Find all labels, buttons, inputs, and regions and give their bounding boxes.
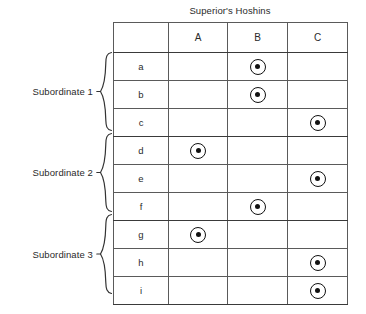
row-label-h: h	[114, 249, 169, 277]
matrix-cell-f-a	[169, 193, 228, 221]
matrix-cell-c-a	[169, 109, 228, 137]
matrix-cell-e-c	[288, 165, 348, 193]
row-label-f: f	[114, 193, 169, 221]
table-header-row: A B C	[114, 23, 348, 53]
matrix-cell-e-a	[169, 165, 228, 193]
matrix-cell-a-b	[228, 53, 288, 81]
matrix-cell-h-b	[228, 249, 288, 277]
matrix-cell-b-a	[169, 81, 228, 109]
row-label-i: i	[114, 277, 169, 305]
matrix-cell-h-c	[288, 249, 348, 277]
table-row: a	[114, 53, 348, 81]
matrix-cell-f-b	[228, 193, 288, 221]
group-label-subordinate-1: Subordinate 1	[33, 86, 96, 97]
matrix-cell-d-a	[169, 137, 228, 165]
relationship-mark-icon	[310, 171, 326, 187]
page-title: Superior's Hoshins	[113, 5, 347, 17]
group-subordinate-1: Subordinate 1	[0, 51, 113, 132]
column-header-a: A	[169, 23, 228, 53]
group-subordinate-3: Subordinate 3	[0, 213, 113, 295]
relationship-mark-icon	[250, 59, 266, 75]
matrix-cell-d-c	[288, 137, 348, 165]
table-row: h	[114, 249, 348, 277]
column-header-c: C	[288, 23, 348, 53]
matrix-cell-f-c	[288, 193, 348, 221]
matrix-cell-i-c	[288, 277, 348, 305]
table-row: d	[114, 137, 348, 165]
group-label-subordinate-2: Subordinate 2	[33, 167, 96, 178]
row-label-a: a	[114, 53, 169, 81]
row-label-c: c	[114, 109, 169, 137]
relationship-mark-icon	[310, 115, 326, 131]
curly-brace-icon	[96, 213, 113, 295]
row-label-d: d	[114, 137, 169, 165]
table-row: e	[114, 165, 348, 193]
header-corner	[114, 23, 169, 53]
group-subordinate-2: Subordinate 2	[0, 132, 113, 213]
matrix-cell-b-c	[288, 81, 348, 109]
relationship-mark-icon	[190, 143, 206, 159]
matrix-cell-g-a	[169, 221, 228, 249]
relationship-mark-icon	[250, 87, 266, 103]
relationship-mark-icon	[310, 283, 326, 299]
curly-brace-icon	[96, 132, 113, 213]
matrix-cell-e-b	[228, 165, 288, 193]
matrix-cell-c-c	[288, 109, 348, 137]
matrix-cell-a-a	[169, 53, 228, 81]
relationship-mark-icon	[190, 227, 206, 243]
relationship-mark-icon	[250, 199, 266, 215]
row-label-e: e	[114, 165, 169, 193]
table-row: b	[114, 81, 348, 109]
matrix-cell-i-a	[169, 277, 228, 305]
matrix-cell-b-b	[228, 81, 288, 109]
relationship-mark-icon	[310, 255, 326, 271]
matrix-cell-a-c	[288, 53, 348, 81]
row-label-g: g	[114, 221, 169, 249]
matrix-cell-d-b	[228, 137, 288, 165]
matrix-cell-i-b	[228, 277, 288, 305]
table-row: g	[114, 221, 348, 249]
matrix-cell-g-c	[288, 221, 348, 249]
group-label-subordinate-3: Subordinate 3	[33, 249, 96, 260]
table-row: c	[114, 109, 348, 137]
curly-brace-icon	[96, 51, 113, 132]
hoshin-matrix-table: A B C abcdefghi	[113, 22, 348, 305]
matrix-cell-c-b	[228, 109, 288, 137]
table-body: abcdefghi	[114, 53, 348, 305]
row-label-b: b	[114, 81, 169, 109]
matrix-cell-h-a	[169, 249, 228, 277]
column-header-b: B	[228, 23, 288, 53]
table-row: f	[114, 193, 348, 221]
matrix-cell-g-b	[228, 221, 288, 249]
table-row: i	[114, 277, 348, 305]
hoshin-matrix-diagram: Superior's Hoshins Subordinate 1 Subordi…	[0, 0, 366, 314]
